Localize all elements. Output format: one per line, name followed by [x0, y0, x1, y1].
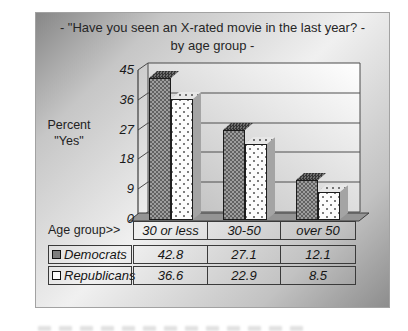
bar-front-face — [318, 192, 340, 220]
bar-front-face — [296, 180, 318, 220]
bar-front-face — [171, 99, 193, 220]
bar-democrats-30-50 — [223, 130, 245, 220]
value-democrats-30-50: 27.1 — [207, 245, 281, 264]
ytick-36: 36 — [102, 92, 134, 107]
value-democrats-over-50: 12.1 — [280, 245, 356, 264]
bar-side-face — [192, 92, 201, 220]
value-republicans-over-50: 8.5 — [280, 266, 356, 285]
bar-republicans-30-50 — [245, 144, 267, 220]
value-republicans-30-50: 22.9 — [207, 266, 281, 285]
y-axis-title-line1: Percent — [40, 117, 98, 133]
category-header-30-50: 30-50 — [207, 221, 281, 240]
category-header-30-or-less: 30 or less — [133, 221, 208, 240]
tick-depth-lines — [138, 63, 148, 219]
legend-republicans-label: Republicans — [64, 268, 136, 283]
democrats-swatch-icon — [52, 250, 61, 259]
value-republicans-30-or-less: 36.6 — [133, 266, 208, 285]
bar-democrats-over-50 — [296, 180, 318, 220]
legend-democrats: Democrats — [48, 245, 132, 264]
y-axis-title-line2: "Yes" — [40, 133, 98, 149]
republicans-swatch-icon — [52, 271, 61, 280]
legend-republicans: Republicans — [48, 266, 132, 285]
ytick-9: 9 — [102, 181, 134, 196]
x-axis-label: Age group>> — [48, 223, 120, 237]
y-axis-title: Percent "Yes" — [40, 117, 98, 149]
bar-front-face — [149, 78, 171, 220]
bar-front-face — [223, 130, 245, 220]
bar-republicans-30-or-less — [171, 99, 193, 220]
cropped-caption-fragment — [38, 326, 303, 331]
bar-democrats-30-or-less — [149, 78, 171, 220]
ytick-27: 27 — [102, 122, 134, 137]
ytick-18: 18 — [102, 151, 134, 166]
bar-republicans-over-50 — [318, 192, 340, 220]
chart-figure: - "Have you seen an X-rated movie in the… — [0, 0, 408, 331]
ytick-45: 45 — [102, 62, 134, 77]
category-header-over-50: over 50 — [280, 221, 356, 240]
legend-democrats-label: Democrats — [64, 247, 127, 262]
value-democrats-30-or-less: 42.8 — [133, 245, 208, 264]
bar-front-face — [245, 144, 267, 220]
bar-side-face — [266, 137, 275, 220]
